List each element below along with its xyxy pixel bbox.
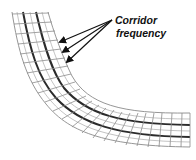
label-frequency: frequency (116, 27, 167, 39)
arrow-2 (63, 20, 112, 52)
arrow-1 (60, 20, 112, 42)
arrow-3 (67, 20, 112, 62)
label-corridor: Corridor (115, 14, 158, 26)
pointer-arrows (60, 20, 112, 62)
corridor-frequency-diagram: Corridor frequency (0, 0, 196, 160)
